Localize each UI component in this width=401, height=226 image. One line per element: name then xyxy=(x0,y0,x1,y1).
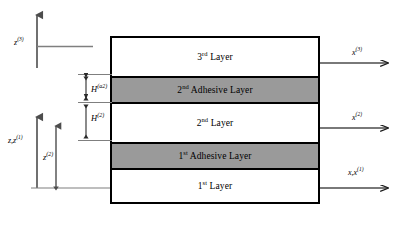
axis-label-x-bottom: x,x(1) xyxy=(348,168,364,177)
axis-label-x-top: x(3) xyxy=(352,48,362,57)
axis-label-z-bottom: z,z(1) xyxy=(8,136,23,145)
dimension-z2 xyxy=(53,126,59,191)
axis-z-top xyxy=(37,15,93,68)
axis-label-z-top: z(3) xyxy=(14,38,24,47)
layer-2nd: 2nd Layer xyxy=(112,104,318,142)
layer-1st-label: 1st Layer xyxy=(198,181,233,191)
dimension-label-z2: z(2) xyxy=(43,152,53,162)
layer-2nd-label: 2nd Layer xyxy=(197,118,234,128)
adhesive-layer-2nd: 2nd Adhesive Layer xyxy=(112,76,318,104)
laminate-stack: 3rd Layer 2nd Adhesive Layer 2nd Layer 1… xyxy=(110,36,320,204)
layer-3rd-label: 3rd Layer xyxy=(197,52,233,62)
dimension-h-adhesive-2 xyxy=(83,76,88,100)
dimension-h-layer-2 xyxy=(83,104,88,138)
adhesive-layer-2nd-label: 2nd Adhesive Layer xyxy=(177,85,252,95)
dimension-label-h-layer-2: H(2) xyxy=(91,113,104,123)
dimension-label-h-adhesive-2: H(a2) xyxy=(91,84,107,94)
axis-label-x-middle: x(2) xyxy=(352,113,362,122)
layered-laminate-diagram: 3rd Layer 2nd Adhesive Layer 2nd Layer 1… xyxy=(0,0,401,226)
layer-3rd: 3rd Layer xyxy=(112,38,318,76)
adhesive-layer-1st-label: 1st Adhesive Layer xyxy=(178,151,251,161)
adhesive-layer-1st: 1st Adhesive Layer xyxy=(112,142,318,170)
layer-1st: 1st Layer xyxy=(112,170,318,201)
